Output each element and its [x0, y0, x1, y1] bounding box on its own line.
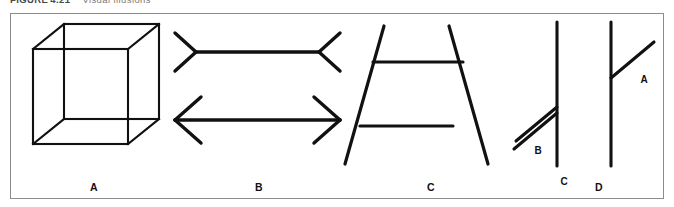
muller-lyer-drawing	[175, 33, 340, 143]
ponzo-drawing	[345, 26, 488, 164]
figure-caption-label: FIGURE	[10, 0, 48, 5]
cube-edge-bottom-right	[128, 119, 159, 144]
figure-caption-text: Visual illusions	[82, 0, 151, 5]
panel-letter-d: D	[595, 181, 603, 193]
panel-letter-a: A	[90, 181, 98, 193]
muller-lyer-top-fin-right-upper	[319, 33, 340, 52]
cube-front-face	[33, 49, 128, 144]
muller-lyer-bottom-head-left-lower	[175, 120, 201, 143]
ponzo-rail-left	[345, 26, 384, 164]
cube-edge-top-right	[128, 24, 159, 49]
cube-edge-bottom-left	[33, 119, 64, 144]
poggendorff-oblique-b	[516, 107, 557, 141]
figure-caption: FIGURE4.21Visual illusions	[10, 0, 151, 6]
muller-lyer-bottom-head-right-upper	[314, 97, 340, 120]
figure-illustration: FIGURE4.21Visual illusions	[0, 0, 674, 207]
panel-letter-c: C	[427, 181, 435, 193]
poggendorff-label-b: B	[534, 145, 541, 156]
poggendorff-label-a: A	[640, 74, 647, 85]
poggendorff-label-c: C	[560, 176, 567, 187]
muller-lyer-top-fin-left-upper	[175, 33, 196, 52]
cube-back-face	[64, 24, 159, 119]
necker-cube-drawing	[33, 24, 159, 144]
muller-lyer-top-fin-right-lower	[319, 52, 340, 71]
illusions-drawing	[11, 14, 665, 200]
ponzo-rail-right	[449, 26, 488, 164]
panel-letter-b: B	[255, 181, 263, 193]
figure-caption-number: 4.21	[50, 0, 70, 5]
figure-plate-frame: A B C A B C D	[10, 13, 664, 199]
muller-lyer-bottom-head-right-lower	[314, 120, 340, 143]
muller-lyer-top-fin-left-lower	[175, 52, 196, 71]
cube-edge-top-left	[33, 24, 64, 49]
muller-lyer-bottom-head-left-upper	[175, 97, 201, 120]
